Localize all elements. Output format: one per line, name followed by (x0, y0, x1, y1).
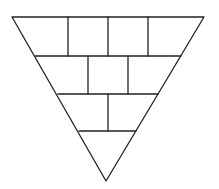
inverted-triangle-diagram (0, 0, 219, 189)
diagram-canvas: Inverted triangle divided into rows of c… (0, 0, 219, 189)
